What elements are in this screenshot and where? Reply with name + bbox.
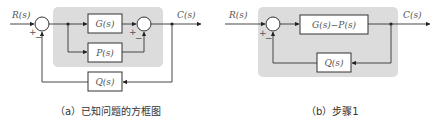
summing-junction-b — [266, 17, 280, 31]
block-p-label: P(s) — [95, 48, 114, 58]
diagram-a: R(s) + − G(s) P(s) + − C(s) Q(s) — [10, 7, 201, 91]
block-q-b-label: Q(s) — [324, 58, 344, 68]
minus-sign-b: − — [265, 33, 273, 43]
input-label-b: R(s) — [228, 10, 248, 20]
minus-sign-a1: − — [35, 32, 43, 42]
caption-a: （a）已知问题的方框图 — [55, 103, 161, 118]
diagram-b: R(s) + − G(s)−P(s) C(s) Q(s) — [225, 7, 430, 77]
input-label-a: R(s) — [11, 10, 31, 20]
block-g-label: G(s) — [96, 19, 115, 29]
output-label-b: C(s) — [403, 10, 422, 20]
summing-junction-1-a — [35, 17, 49, 31]
caption-b: （b）步骤1 — [306, 103, 359, 118]
output-label-a: C(s) — [177, 10, 196, 20]
block-g-minus-p-label: G(s)−P(s) — [312, 20, 357, 30]
block-q-a-label: Q(s) — [95, 77, 115, 87]
summing-junction-2-a — [137, 17, 151, 31]
minus-sign-a2: − — [135, 33, 143, 43]
